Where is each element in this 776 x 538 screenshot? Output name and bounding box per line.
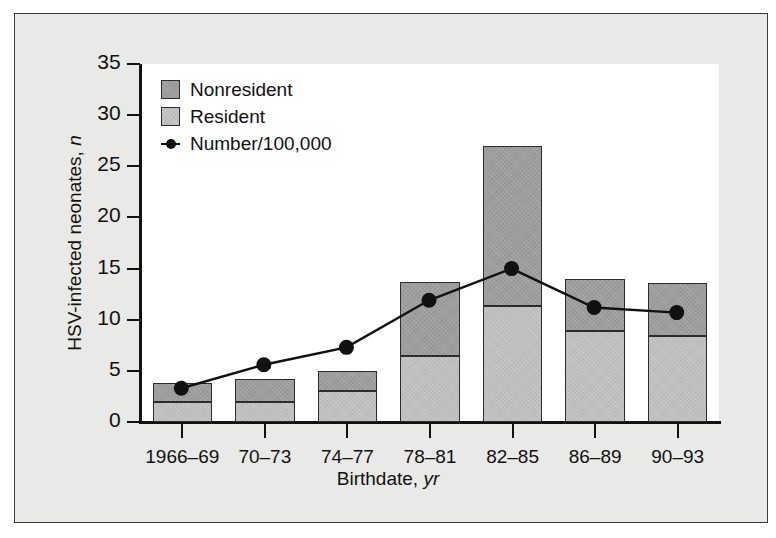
legend-label-resident: Resident [190, 106, 265, 128]
legend-label-rate: Number/100,000 [190, 133, 332, 155]
x-axis-tick-label: 86–89 [569, 446, 622, 468]
y-axis-title-main: HSV-infected neonates, [64, 151, 85, 351]
x-axis-tick [677, 424, 679, 438]
bar-segment-resident [153, 402, 212, 422]
bar-stack [153, 383, 212, 422]
x-axis-tick-label: 1966–69 [145, 446, 219, 468]
y-axis-tick [127, 319, 140, 321]
x-axis-tick-label: 70–73 [238, 446, 291, 468]
bar-segment-resident [318, 391, 377, 422]
x-axis-tick [264, 424, 266, 438]
bar-segment-nonresident [483, 146, 542, 307]
x-axis-tick [512, 424, 514, 438]
x-axis-tick-label: 90–93 [651, 446, 704, 468]
x-axis-tick-label: 82–85 [486, 446, 539, 468]
y-axis-tick-label: 35 [61, 50, 121, 74]
bar-stack [565, 279, 624, 422]
bar-segment-nonresident [318, 371, 377, 391]
legend-item-rate: Number/100,000 [161, 130, 332, 157]
bar-segment-nonresident [153, 383, 212, 401]
x-axis-tick-label: 74–77 [321, 446, 374, 468]
bar-stack [318, 371, 377, 422]
figure-container: 05101520253035 1966–6970–7374–7778–8182–… [0, 0, 776, 538]
x-axis-title-main: Birthdate, [337, 468, 418, 489]
y-axis-tick [127, 63, 140, 65]
x-axis-tick [346, 424, 348, 438]
y-axis-tick [127, 268, 140, 270]
bar-segment-resident [235, 402, 294, 422]
y-axis-title: HSV-infected neonates, n [64, 73, 86, 413]
x-axis-title-unit: yr [423, 468, 439, 489]
y-axis-title-unit: n [64, 135, 85, 146]
bar-segment-resident [565, 331, 624, 422]
legend-label-nonresident: Nonresident [190, 79, 292, 101]
x-axis-title: Birthdate, yr [0, 468, 776, 490]
legend-line-marker-icon [161, 134, 180, 153]
bar-stack [400, 282, 459, 422]
x-axis-tick [594, 424, 596, 438]
x-axis-tick [181, 424, 183, 438]
y-axis-tick [127, 216, 140, 218]
bar-segment-resident [400, 356, 459, 422]
legend-item-resident: Resident [161, 103, 332, 130]
bar-segment-resident [648, 336, 707, 422]
bar-segment-nonresident [565, 279, 624, 331]
bar-stack [648, 283, 707, 422]
chart-legend: Nonresident Resident Number/100,000 [161, 76, 332, 157]
x-axis-tick-label: 78–81 [404, 446, 457, 468]
figure-panel: 05101520253035 1966–6970–7374–7778–8182–… [14, 13, 768, 523]
bar-segment-nonresident [235, 379, 294, 402]
legend-swatch-resident-icon [161, 107, 180, 126]
bar-segment-nonresident [648, 283, 707, 336]
y-axis-tick [127, 421, 140, 423]
legend-item-nonresident: Nonresident [161, 76, 332, 103]
bar-segment-nonresident [400, 282, 459, 356]
bar-stack [235, 379, 294, 422]
bar-segment-resident [483, 306, 542, 422]
bar-stack [483, 146, 542, 422]
y-axis-tick [127, 165, 140, 167]
y-axis-tick [127, 114, 140, 116]
y-axis-tick [127, 370, 140, 372]
legend-swatch-nonresident-icon [161, 80, 180, 99]
x-axis-tick [429, 424, 431, 438]
